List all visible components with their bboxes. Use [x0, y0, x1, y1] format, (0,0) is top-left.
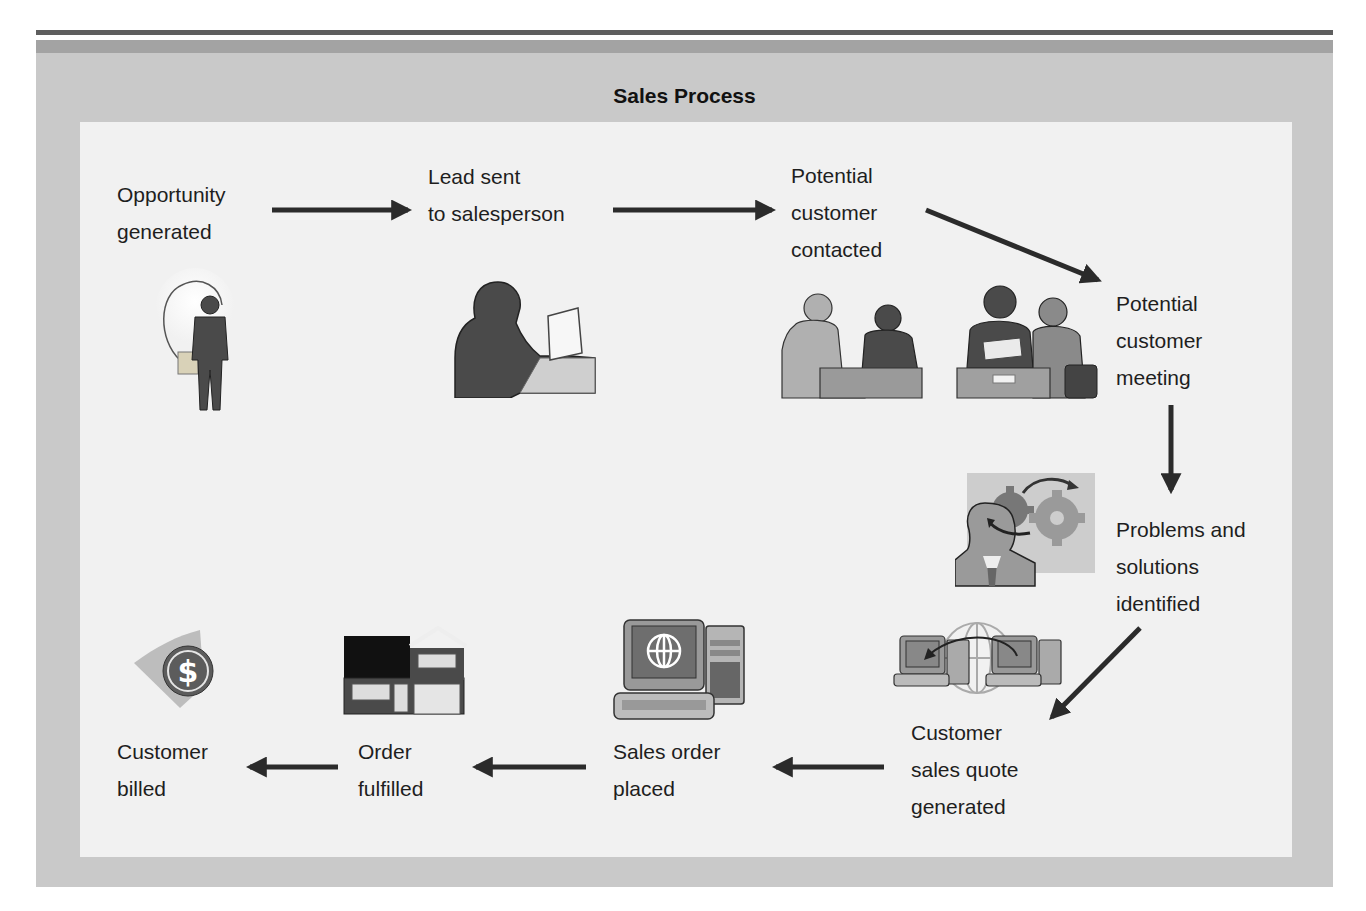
step-opportunity-label: Opportunity generated: [117, 176, 226, 250]
meeting-table-icon: [955, 280, 1100, 400]
step-billed-label: Customer billed: [117, 733, 208, 807]
step-meeting-label: Potential customer meeting: [1116, 285, 1202, 396]
two-people-talking-icon: [780, 290, 925, 400]
dollar-coin-icon: $: [132, 628, 222, 710]
networked-computers-icon: [892, 618, 1062, 696]
computer-globe-icon: [612, 618, 747, 723]
person-gears-icon: [955, 468, 1100, 588]
svg-text:$: $: [178, 654, 199, 689]
step-order-label: Sales order placed: [613, 733, 720, 807]
step-lead-label: Lead sent to salesperson: [428, 158, 565, 232]
arrow-problems-to-quote: [1052, 628, 1140, 717]
step-problems-label: Problems and solutions identified: [1116, 511, 1246, 622]
arrow-contacted-to-meeting: [926, 210, 1098, 280]
house-icon: [342, 626, 470, 716]
step-quote-label: Customer sales quote generated: [911, 714, 1018, 825]
step-contacted-label: Potential customer contacted: [791, 157, 882, 268]
person-laptop-icon: [450, 278, 600, 398]
lightbulb-person-icon: [150, 265, 250, 420]
step-fulfilled-label: Order fulfilled: [358, 733, 423, 807]
